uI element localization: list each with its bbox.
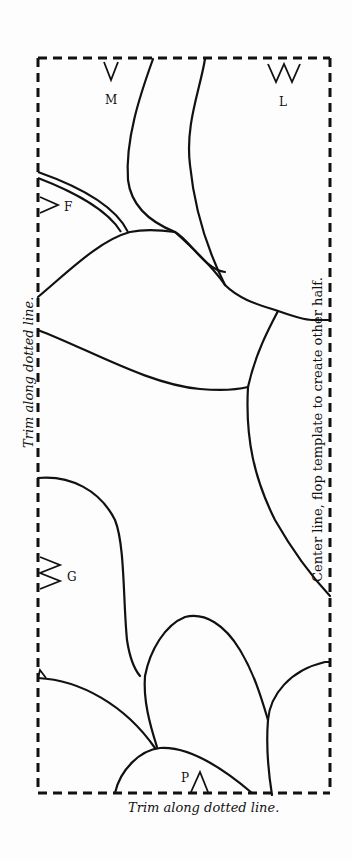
- notch-f-icon: [40, 197, 58, 213]
- curve-center-lower: [248, 311, 278, 387]
- notch-m-icon: [104, 62, 118, 80]
- notch-l-icon: [268, 64, 300, 82]
- notch-p-icon: [191, 772, 208, 792]
- curve-top-a: [128, 59, 175, 232]
- curve-left-bottom: [38, 678, 155, 748]
- label-l: L: [279, 95, 287, 109]
- marker-l: [268, 64, 300, 82]
- label-f: F: [64, 200, 72, 214]
- marker-m: [104, 62, 118, 80]
- center-line-caption: Center line, flop template to create oth…: [310, 277, 325, 582]
- curve-g-petal: [38, 478, 140, 676]
- marker-p: [191, 772, 208, 792]
- notch-small-icon: [38, 670, 46, 678]
- marker-g: [40, 557, 60, 589]
- notch-g-icon: [40, 557, 60, 589]
- label-p: P: [181, 771, 189, 785]
- label-m: M: [105, 93, 117, 107]
- curve-upper-band: [38, 230, 225, 297]
- label-g: G: [67, 570, 77, 584]
- pattern-lines: [38, 59, 330, 795]
- curve-junction-right: [175, 232, 330, 320]
- pattern-template: M L F G P Trim along dotted line. Trim a…: [0, 0, 352, 861]
- marker-left-small: [38, 670, 46, 678]
- marker-f: [40, 197, 58, 213]
- curve-right-stem: [267, 720, 272, 795]
- curve-right-petal: [268, 662, 330, 720]
- curve-lower-band: [38, 330, 248, 390]
- bottom-trim-caption: Trim along dotted line.: [128, 800, 279, 815]
- left-trim-caption: Trim along dotted line.: [21, 297, 36, 448]
- curve-middle-petal: [145, 616, 268, 720]
